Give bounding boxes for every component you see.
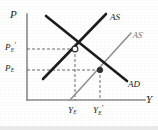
as-ad-diagram: P Y PE′PE YEYE′ ASAS′AD: [0, 0, 158, 130]
curve-label-ad: AD: [128, 80, 140, 89]
label-base: AS: [110, 12, 120, 22]
marker-new-equilibrium: [97, 67, 103, 73]
y-axis-label: P: [10, 9, 17, 20]
x-axis-label: Y: [146, 94, 152, 105]
label-prime: ′: [142, 30, 144, 37]
marker-initial-equilibrium: [72, 46, 78, 52]
x-tick-label-ye: YE: [68, 106, 77, 116]
x-tick-label-ye-prime: YE′: [93, 106, 104, 116]
y-tick-label-pe: PE: [5, 64, 14, 74]
label-prime: ′: [102, 105, 104, 113]
curve-lines: [43, 14, 131, 100]
curve-label-as-prime: AS′: [133, 31, 144, 40]
curve-label-as: AS: [110, 13, 120, 22]
y-tick-label-pe-prime: PE′: [5, 43, 16, 53]
label-base: P: [5, 63, 11, 73]
bottom-edge-strip: [0, 126, 158, 130]
label-base: AS: [133, 31, 142, 40]
label-subscript: E: [11, 67, 15, 73]
label-subscript: E: [73, 109, 77, 115]
label-base: P: [5, 42, 11, 52]
diagram-canvas: [0, 0, 158, 130]
label-base: AD: [128, 79, 140, 89]
curve-ad: [46, 16, 127, 81]
label-prime: ′: [14, 42, 16, 50]
